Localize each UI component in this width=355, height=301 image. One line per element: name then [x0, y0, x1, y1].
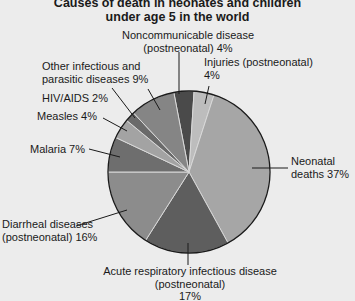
label-hiv: HIV/AIDS 2% — [42, 92, 108, 105]
label-other-infectious: Other infectious andparasitic diseases 9… — [42, 60, 148, 85]
label-measles: Measles 4% — [37, 110, 97, 123]
label-diarrheal: Diarrheal diseases(postneonatal) 16% — [2, 218, 97, 243]
label-injuries: Injuries (postneonatal)4% — [204, 56, 313, 81]
label-malaria: Malaria 7% — [30, 143, 85, 156]
label-neonatal: Neonataldeaths 37% — [291, 155, 349, 180]
label-noncommunicable: Noncommunicable disease(postneonatal) 4% — [118, 29, 258, 54]
label-acute-respiratory: Acute respiratory infectious disease(pos… — [90, 265, 290, 301]
